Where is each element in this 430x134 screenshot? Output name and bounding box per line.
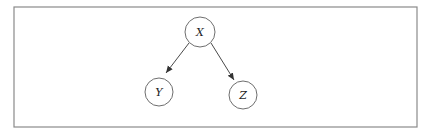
node-x: X bbox=[185, 17, 215, 47]
diagram-frame bbox=[14, 7, 417, 127]
node-y: Y bbox=[145, 78, 173, 106]
node-z-label: Z bbox=[238, 89, 247, 102]
node-x-label: X bbox=[195, 26, 205, 39]
edge-x-to-z bbox=[211, 43, 234, 80]
diagram-canvas: X Y Z bbox=[0, 0, 430, 134]
edge-x-to-y bbox=[166, 43, 189, 73]
node-z: Z bbox=[229, 81, 257, 109]
